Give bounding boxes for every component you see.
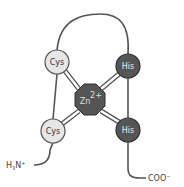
svg-text:COO−: COO− <box>148 173 170 183</box>
c-terminus-coo: COO <box>148 174 166 183</box>
residue-label: His <box>122 126 134 135</box>
residue-label: Cys <box>46 127 61 136</box>
residue-his-top: His <box>116 54 140 78</box>
svg-text:H3N+: H3N+ <box>6 160 25 171</box>
zinc-label: Zn <box>80 97 91 106</box>
residue-label: Cys <box>50 58 65 67</box>
c-terminus-charge: − <box>166 173 170 179</box>
n-terminus-charge: + <box>21 160 25 166</box>
zinc-charge: 2+ <box>90 91 102 100</box>
c-terminus: COO− <box>148 173 170 183</box>
residue-label: His <box>122 62 134 71</box>
n-terminus: H3N+ <box>6 160 25 171</box>
zinc-finger-diagram: Zn 2+ Cys His Cys His H3N+ COO− <box>0 0 184 187</box>
residue-cys-top: Cys <box>45 50 69 74</box>
residue-cys-bottom: Cys <box>41 119 65 143</box>
zinc-ion: Zn 2+ <box>75 84 105 115</box>
residue-his-bottom: His <box>116 118 140 142</box>
